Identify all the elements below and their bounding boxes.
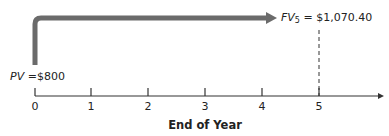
pv-symbol: PV [10, 70, 24, 83]
pv-equals: = [28, 70, 37, 83]
tick-label-1: 1 [81, 101, 101, 112]
fv-value: $1,070.40 [316, 11, 372, 24]
tick-label-0: 0 [25, 101, 45, 112]
future-value-label: FV5 = $1,070.40 [281, 12, 372, 25]
axis-ticks [35, 88, 319, 96]
flow-arrowhead-icon [266, 12, 277, 24]
axis-title: End of Year [150, 118, 260, 132]
fv-equals: = [303, 11, 312, 24]
axis-arrowhead-icon [378, 93, 384, 99]
tick-label-3: 3 [195, 101, 215, 112]
tick-label-5: 5 [309, 101, 329, 112]
fv-subscript: 5 [295, 16, 300, 25]
flow-arrow [35, 18, 268, 65]
pv-value: $800 [37, 70, 65, 83]
tick-label-2: 2 [138, 101, 158, 112]
fv-symbol: FV [281, 11, 295, 24]
present-value-label: PV =$800 [10, 71, 65, 82]
tick-label-4: 4 [252, 101, 272, 112]
